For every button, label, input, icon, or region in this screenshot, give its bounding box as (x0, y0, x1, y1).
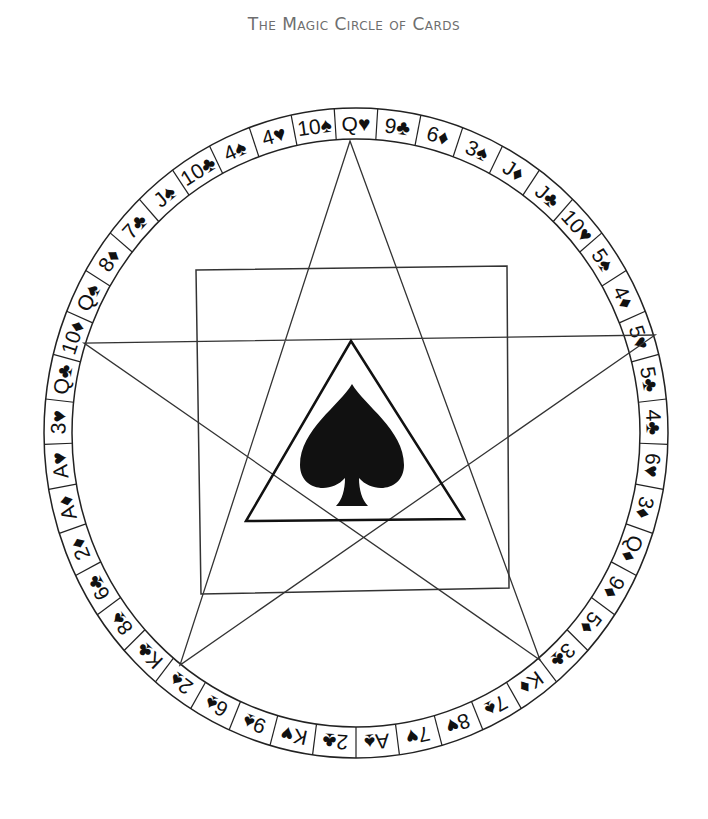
card-label: 3♦ (631, 494, 659, 522)
card-label: 10♦ (56, 317, 88, 357)
card-label: 9♠ (239, 709, 268, 738)
card-label: 8♦ (93, 244, 125, 276)
card-label: Q♣ (49, 362, 77, 396)
card-label: 4♣ (642, 409, 666, 435)
card-label: 5♦ (575, 608, 607, 640)
card-label: 4♥ (259, 121, 289, 150)
card-label: K♥ (279, 722, 310, 750)
card-label: 4♠ (220, 135, 250, 165)
card-label: 8♠ (105, 607, 137, 639)
card-label: A♦ (53, 493, 81, 523)
card-label: Q♠ (72, 280, 105, 315)
card-label: 6♣ (81, 571, 114, 605)
card-label: 3♠ (462, 135, 492, 165)
card-label: 3♥ (46, 410, 70, 435)
card-label: K♣ (131, 638, 167, 674)
card-label: 2♣ (321, 729, 348, 754)
card-label: 5♠ (587, 244, 619, 276)
card-label: 6♦ (424, 121, 452, 149)
magic-circle-diagram: Q♥9♣6♦3♠J♦J♣10♥5♠4♦5♥5♣4♣6♥3♦Q♦9♦5♦3♣K♦7… (0, 0, 708, 819)
card-label: 8♥ (443, 709, 474, 739)
card-label: 7♣ (117, 209, 151, 243)
card-label: 7♥ (404, 722, 432, 750)
card-label: 5♥ (625, 322, 654, 352)
card-label: Q♥ (342, 112, 371, 135)
card-label: A♠ (363, 729, 390, 754)
card-label: 10♣ (176, 151, 220, 190)
card-label: J♣ (531, 179, 565, 212)
card-label: 6♥ (640, 452, 665, 478)
card-label: K♦ (514, 667, 548, 700)
card-label: 3♣ (546, 639, 580, 673)
card-label: A♥ (47, 451, 73, 480)
card-label: 5♣ (636, 365, 663, 394)
card-label: 10♠ (296, 113, 333, 141)
card-label: 10♥ (557, 205, 598, 247)
card-label: 9♣ (383, 113, 412, 139)
